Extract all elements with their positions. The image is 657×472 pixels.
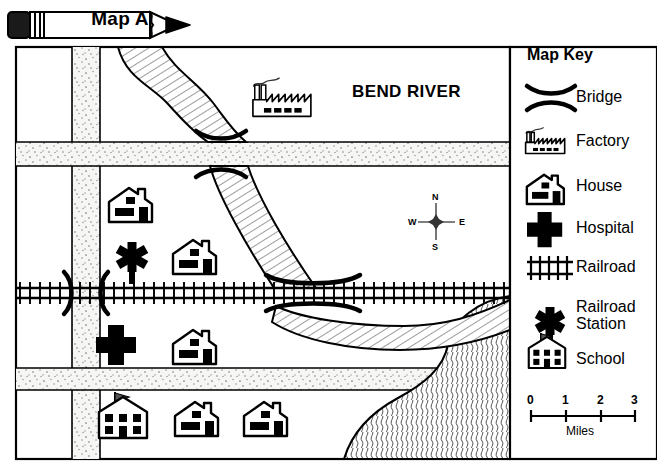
map-page: Map A BEND RIVER Map Key Bridge Factory …: [0, 0, 657, 472]
key-item-factory-label: Factory: [576, 132, 629, 150]
road-horizontal-upper: [16, 142, 510, 166]
scale-unit-label: Miles: [566, 424, 594, 438]
key-item-house-label: House: [576, 177, 622, 195]
key-item-school-label: School: [576, 350, 625, 368]
key-item-hospital-label: Hospital: [576, 219, 634, 237]
scale-tick-3: 3: [631, 393, 638, 407]
key-item-railroad-label: Railroad: [576, 258, 636, 276]
key-item-bridge-label: Bridge: [576, 88, 622, 106]
key-railroad-station-line2: Station: [576, 315, 626, 332]
scale-tick-1: 1: [562, 393, 569, 407]
compass-west-label: W: [408, 217, 417, 227]
scale-tick-2: 2: [597, 393, 604, 407]
key-item-railroad-station-label: Railroad Station: [576, 299, 636, 333]
key-railroad-station-line1: Railroad: [576, 298, 636, 315]
page-title: Map A: [60, 8, 180, 30]
road-vertical: [72, 47, 100, 459]
river-label: BEND RIVER: [352, 82, 461, 102]
compass-east-label: E: [459, 217, 465, 227]
scale-tick-0: 0: [527, 393, 534, 407]
map-scene: [0, 0, 657, 472]
compass-north-label: N: [432, 192, 439, 202]
map-key-title: Map Key: [527, 46, 593, 64]
compass-south-label: S: [432, 242, 438, 252]
